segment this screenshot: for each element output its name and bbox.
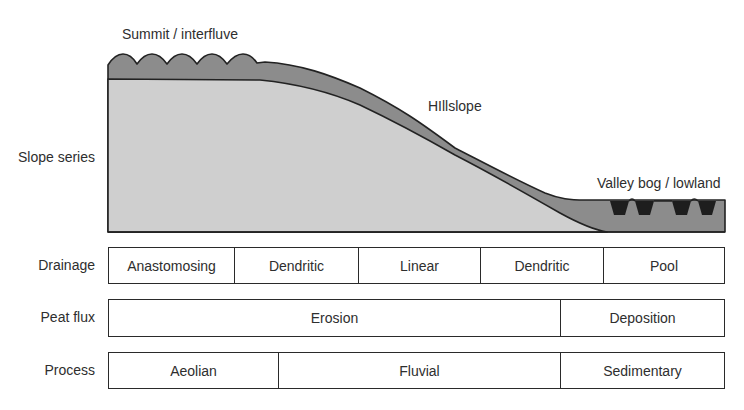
drainage-cell: Dendritic bbox=[234, 248, 358, 283]
drainage-cell: Anastomosing bbox=[109, 248, 234, 283]
peat-flux-cell: Deposition bbox=[560, 300, 724, 336]
process-cell: Aeolian bbox=[109, 353, 278, 388]
process-row: Aeolian Fluvial Sedimentary bbox=[108, 352, 725, 389]
process-cell: Sedimentary bbox=[560, 353, 724, 388]
drainage-cell: Dendritic bbox=[480, 248, 603, 283]
drainage-cell: Linear bbox=[358, 248, 480, 283]
peat-flux-cell: Erosion bbox=[109, 300, 560, 336]
hillslope-label: HIllslope bbox=[428, 98, 482, 114]
drainage-label: Drainage bbox=[38, 257, 95, 273]
slope-cross-section bbox=[0, 0, 744, 410]
process-label: Process bbox=[44, 362, 95, 378]
valley-label: Valley bog / lowland bbox=[597, 175, 720, 191]
drainage-row: Anastomosing Dendritic Linear Dendritic … bbox=[108, 247, 725, 284]
peat-flux-row: Erosion Deposition bbox=[108, 299, 725, 337]
peat-flux-label: Peat flux bbox=[41, 309, 95, 325]
process-cell: Fluvial bbox=[278, 353, 560, 388]
drainage-cell: Pool bbox=[603, 248, 724, 283]
summit-label: Summit / interfluve bbox=[122, 26, 238, 42]
slope-series-label: Slope series bbox=[18, 149, 95, 165]
